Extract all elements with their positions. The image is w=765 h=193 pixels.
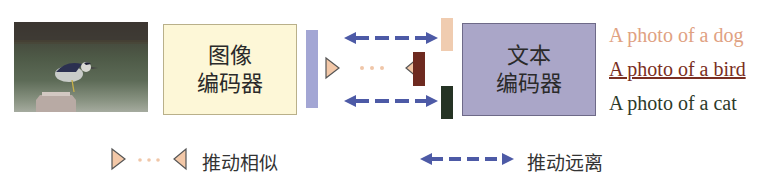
image-encoder-label-line1: 图像 bbox=[197, 42, 263, 70]
image-encoder-box: 图像 编码器 bbox=[163, 24, 297, 115]
bird-photo-illustration bbox=[14, 22, 148, 112]
caption-cat: A photo of a cat bbox=[609, 92, 737, 115]
text-encoder-box: 文本 编码器 bbox=[462, 23, 596, 116]
pull-legend-icon bbox=[108, 146, 192, 172]
caption-dog: A photo of a dog bbox=[609, 24, 743, 47]
pull-legend-label: 推动相似 bbox=[202, 148, 278, 175]
push-legend-label: 推动远离 bbox=[527, 148, 603, 175]
image-encoder-label-line2: 编码器 bbox=[197, 70, 263, 98]
pull-indicator-middle bbox=[326, 58, 418, 78]
input-bird-photo bbox=[14, 22, 148, 112]
push-arrow-bottom bbox=[344, 95, 438, 107]
image-embedding-bar bbox=[306, 30, 318, 108]
push-legend-icon bbox=[418, 150, 518, 168]
text-embedding-cat bbox=[441, 86, 453, 119]
text-encoder-label-line1: 文本 bbox=[496, 42, 562, 70]
caption-bird: A photo of a bird bbox=[609, 58, 746, 81]
text-embedding-dog bbox=[441, 18, 453, 51]
text-embedding-bird bbox=[413, 52, 425, 86]
contrastive-arrows bbox=[320, 20, 460, 120]
push-arrow-top bbox=[344, 32, 438, 44]
text-encoder-label-line2: 编码器 bbox=[496, 70, 562, 98]
